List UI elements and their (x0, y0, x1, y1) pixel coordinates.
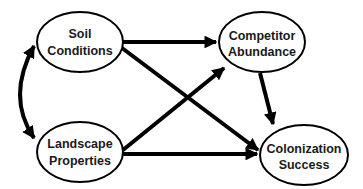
node-label: Landscape (47, 137, 112, 151)
node-colonization-success: Colonization Success (260, 125, 348, 185)
node-label: Success (279, 158, 330, 172)
node-label: Abundance (228, 45, 296, 59)
edge-soil-landscape-correlation (20, 46, 34, 138)
path-diagram: Soil Conditions Competitor Abundance Lan… (0, 0, 363, 189)
node-competitor-abundance: Competitor Abundance (219, 12, 305, 72)
node-landscape-properties: Landscape Properties (37, 122, 123, 182)
edge-competitor-to-colonization (260, 73, 273, 124)
node-label: Soil (69, 27, 92, 41)
node-label: Colonization (267, 142, 342, 156)
node-label: Properties (49, 154, 111, 168)
node-label: Competitor (229, 29, 296, 43)
node-soil-conditions: Soil Conditions (37, 12, 123, 72)
node-label: Conditions (47, 44, 112, 58)
edge-landscape-to-competitor (123, 68, 224, 150)
